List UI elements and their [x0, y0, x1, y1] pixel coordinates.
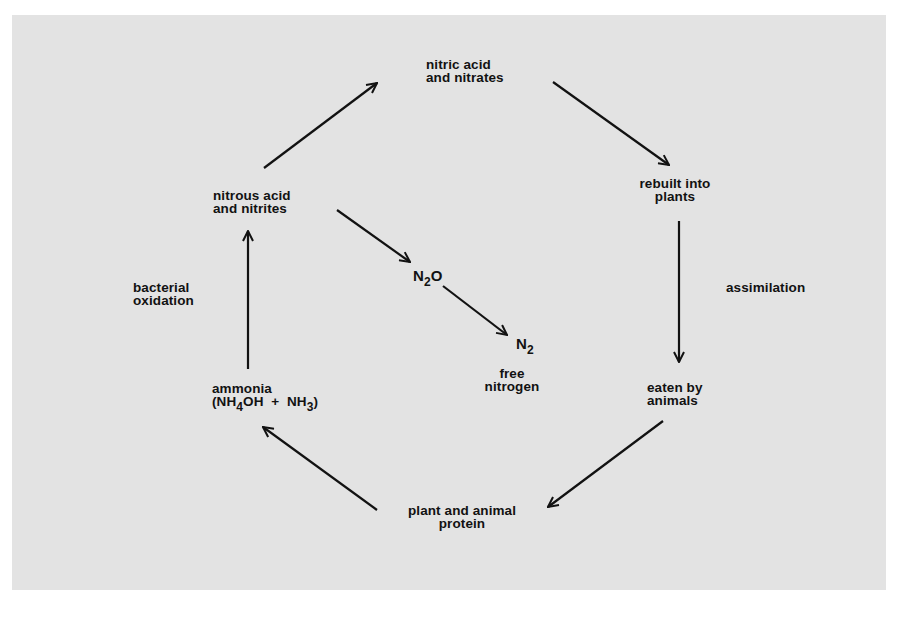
arrow-eaten-to-protein — [548, 421, 663, 507]
arrow-nitrous-to-n2o — [337, 210, 410, 262]
arrow-nitrous-to-nitric — [264, 83, 377, 168]
arrow-protein-to-ammonia — [263, 427, 377, 510]
label-bacterial-oxidation: bacterial oxidation — [133, 281, 194, 307]
node-eaten-by-animals: eaten by animals — [647, 381, 703, 407]
node-rebuilt-into-plants: rebuilt into plants — [620, 177, 730, 203]
label-assimilation: assimilation — [726, 281, 805, 294]
ammonia-formula: (NH4OH + NH3) — [212, 395, 318, 408]
node-n2o: N2O — [413, 268, 443, 283]
node-n2: N2 — [516, 336, 534, 351]
node-ammonia: ammonia (NH4OH + NH3) — [212, 382, 318, 408]
label-free-nitrogen: free nitrogen — [472, 367, 552, 393]
node-nitric-acid: nitric acid and nitrates — [426, 58, 504, 84]
arrow-n2o-to-n2 — [443, 286, 507, 335]
arrow-nitric-to-rebuilt — [553, 82, 669, 165]
node-nitrous-acid: nitrous acid and nitrites — [213, 189, 291, 215]
node-plant-animal-protein: plant and animal protein — [392, 504, 532, 530]
